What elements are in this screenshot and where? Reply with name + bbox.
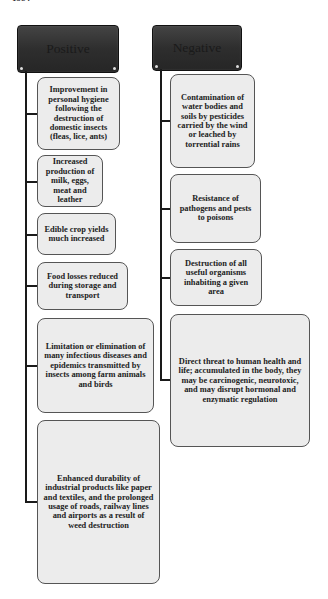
positive-item-box: Increased production of milk, eggs, meat… (37, 155, 103, 207)
positive-item-box: Food losses reduced during storage and t… (37, 262, 128, 310)
negative-item-text: Destruction of all useful organisms inha… (176, 259, 256, 297)
positive-item-box: Limitation or elimination of many infect… (37, 318, 154, 413)
positive-item-box: Enhanced durability of industrial produc… (37, 420, 160, 584)
positive-branch-line (25, 285, 37, 287)
positive-branch-line (25, 365, 37, 367)
connector-dot (155, 65, 158, 68)
positive-header-title: Positive (46, 41, 90, 57)
negative-item-box: Direct threat to human health and life; … (170, 314, 310, 447)
positive-item-text: Enhanced durability of industrial produc… (43, 474, 154, 530)
positive-item-text: Limitation or elimination of many infect… (43, 342, 148, 389)
connector-dot (236, 65, 239, 68)
positive-header: Positive (17, 25, 119, 73)
negative-branch-line (160, 379, 170, 381)
negative-item-box: Destruction of all useful organisms inha… (170, 249, 262, 306)
negative-item-text: Contamination of water bodies and soils … (176, 93, 249, 149)
connector-dot (113, 67, 116, 70)
negative-branch-line (160, 208, 170, 210)
negative-branch-line (160, 120, 170, 122)
negative-item-text: Direct threat to human health and life; … (176, 357, 304, 404)
page-label: 1984 (12, 0, 30, 3)
negative-item-box: Resistance of pathogens and pests to poi… (170, 174, 261, 243)
negative-item-box: Contamination of water bodies and soils … (170, 74, 255, 168)
negative-trunk-line (160, 69, 162, 380)
positive-branch-line (25, 234, 37, 236)
positive-branch-line (25, 113, 37, 115)
positive-item-text: Improvement in personal hygiene followin… (43, 85, 114, 141)
positive-branch-line (25, 501, 37, 503)
positive-item-box: Improvement in personal hygiene followin… (37, 77, 120, 150)
negative-header-title: Negative (173, 40, 222, 56)
positive-item-text: Food losses reduced during storage and t… (43, 272, 122, 300)
negative-item-text: Resistance of pathogens and pests to poi… (176, 194, 255, 222)
positive-item-text: Edible crop yields much increased (43, 225, 110, 244)
negative-header: Negative (152, 25, 242, 71)
positive-item-text: Increased production of milk, eggs, meat… (43, 157, 97, 204)
negative-branch-line (160, 277, 170, 279)
connector-dot (20, 67, 23, 70)
positive-item-box: Edible crop yields much increased (37, 213, 116, 255)
positive-branch-line (25, 181, 37, 183)
